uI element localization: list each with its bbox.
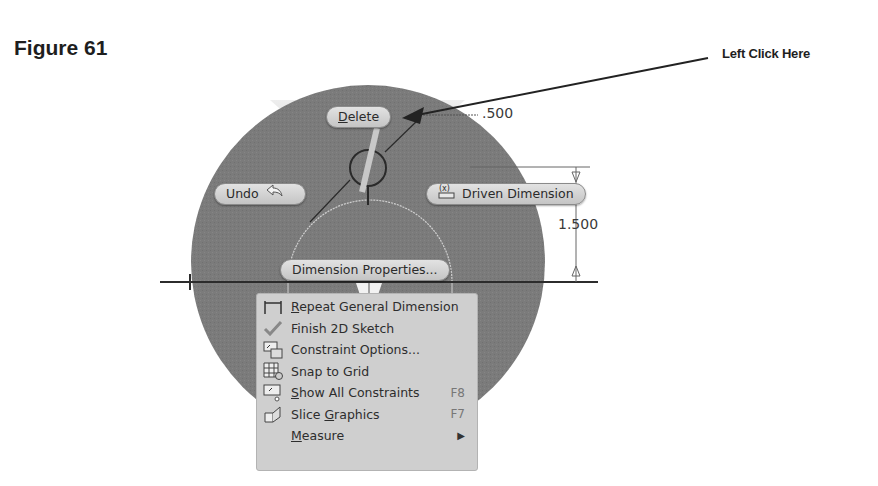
slice-graphics-icon xyxy=(262,405,284,423)
checkmark-icon xyxy=(262,319,284,337)
menu-item-snap-to-grid[interactable]: Snap to Grid xyxy=(257,361,477,383)
shortcut-f7: F7 xyxy=(450,407,465,421)
dimension-properties-button[interactable]: Dimension Properties... xyxy=(280,259,450,281)
delete-mnemonic: D xyxy=(338,109,348,124)
driven-dimension-button[interactable]: (x) Driven Dimension xyxy=(426,183,586,205)
svg-text:(x): (x) xyxy=(439,184,450,193)
driven-dimension-icon: (x) xyxy=(438,183,456,206)
undo-label: Undo xyxy=(226,183,259,205)
undo-button[interactable]: Undo xyxy=(214,183,306,205)
dimension-value-top[interactable]: .500 xyxy=(482,105,513,121)
driven-dimension-label: Driven Dimension xyxy=(462,183,574,205)
dimension-value-right[interactable]: 1.500 xyxy=(558,216,598,232)
general-dimension-icon xyxy=(262,298,284,316)
menu-item-show-all-constraints[interactable]: Show All Constraints F8 xyxy=(257,382,477,404)
menu-item-repeat-general-dimension[interactable]: Repeat General Dimension xyxy=(257,296,477,318)
context-menu: Repeat General Dimension Finish 2D Sketc… xyxy=(256,293,478,471)
menu-item-slice-graphics[interactable]: Slice Graphics F7 xyxy=(257,404,477,426)
shortcut-f8: F8 xyxy=(450,386,465,400)
constraint-options-icon xyxy=(262,341,284,359)
delete-label: elete xyxy=(348,109,379,124)
submenu-arrow-icon: ▶ xyxy=(457,430,465,441)
delete-button[interactable]: Delete xyxy=(326,106,391,128)
snap-grid-icon xyxy=(262,362,284,380)
show-constraints-icon xyxy=(262,384,284,402)
menu-item-finish-2d-sketch[interactable]: Finish 2D Sketch xyxy=(257,318,477,340)
menu-item-measure[interactable]: Measure ▶ xyxy=(257,425,477,447)
dimension-properties-label: Dimension Properties... xyxy=(292,259,438,281)
undo-arrow-icon xyxy=(265,183,285,205)
menu-item-constraint-options[interactable]: Constraint Options... xyxy=(257,339,477,361)
